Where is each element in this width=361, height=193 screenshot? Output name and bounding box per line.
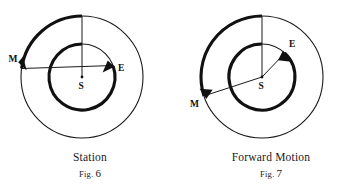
sight-line-m-s-e — [22, 66, 114, 69]
figure-7: M E S Forward Motion Fig.7 — [181, 0, 361, 193]
figure-6: M E S Station Fig.6 — [0, 0, 180, 193]
center-label-s: S — [259, 81, 264, 91]
outer-body-label-m: M — [190, 99, 199, 109]
earth-direction-arrowhead — [103, 61, 115, 73]
figure-caption-title: Forward Motion — [181, 150, 361, 164]
fig-number: 6 — [96, 167, 102, 179]
figure-number-line: Fig.6 — [0, 166, 180, 181]
orbit-diagram-forward-motion: M E S — [181, 0, 361, 150]
fig-abbreviation: Fig. — [260, 169, 275, 179]
outer-body-label-m: M — [9, 54, 18, 64]
outer-orbit-traveled-arc — [201, 16, 262, 96]
figure-number-line: Fig.7 — [181, 166, 361, 181]
inner-body-label-e: E — [289, 39, 295, 49]
center-label-s: S — [79, 81, 84, 91]
figure-caption-title: Station — [0, 150, 180, 164]
fig-abbreviation: Fig. — [79, 169, 94, 179]
sun-center-dot — [261, 76, 264, 79]
fig-number: 7 — [277, 167, 283, 179]
sun-center-dot — [81, 76, 84, 79]
figure-plate: M E S Station Fig.6 — [0, 0, 361, 193]
inner-body-label-e: E — [118, 63, 124, 73]
orbit-diagram-station: M E S — [0, 0, 180, 150]
